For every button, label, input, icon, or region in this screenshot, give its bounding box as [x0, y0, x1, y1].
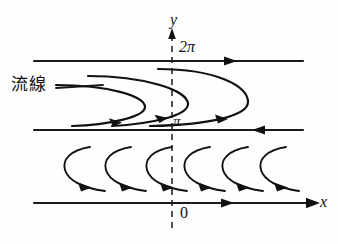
lower-streamline-4-path	[184, 147, 225, 191]
lower-streamline-5	[222, 147, 263, 192]
boundary-line-y-0-group	[34, 198, 320, 208]
y-tick-label-two-pi: 2π	[179, 39, 195, 55]
lower-streamline-1	[64, 147, 105, 192]
lower-streamline-5-arrow	[236, 183, 250, 192]
lower-streamline-2	[105, 147, 146, 192]
upper-streamline-2-arrow	[155, 115, 169, 123]
lower-streamline-2-arrow	[119, 183, 133, 192]
lower-streamline-5-path	[222, 147, 263, 191]
streamline-figure: y 2π π 0 x 流線	[0, 0, 338, 244]
lower-band-streamlines	[64, 147, 299, 192]
boundary-line-y-2pi-flow-arrow	[224, 56, 237, 65]
lower-streamline-4-arrow	[198, 183, 212, 192]
x-axis-label: x	[320, 194, 327, 210]
lower-streamline-3-path	[146, 147, 187, 191]
origin-label: 0	[180, 205, 188, 221]
lower-streamline-3	[146, 147, 187, 192]
x-axis-arrowhead	[306, 198, 320, 208]
lower-streamline-4	[184, 147, 225, 192]
upper-streamline-1	[56, 85, 145, 127]
upper-streamline-3-arrow	[215, 114, 228, 123]
y-axis-label: y	[170, 12, 177, 28]
lower-streamline-1-arrow	[78, 183, 92, 192]
upper-band-streamlines	[56, 69, 248, 127]
y-axis-arrowhead	[168, 28, 176, 39]
y-tick-label-pi: π	[173, 114, 181, 129]
boundary-line-y-0-flow-arrow	[221, 198, 234, 207]
streamline-diagram-canvas	[0, 0, 338, 244]
upper-streamline-1-path	[56, 85, 145, 126]
lower-streamline-6	[260, 147, 299, 192]
boundary-line-y-2pi-group	[34, 56, 303, 65]
lower-streamline-1-path	[64, 147, 105, 191]
boundary-line-y-pi-flow-arrow	[252, 125, 265, 134]
lower-streamline-6-path	[260, 147, 299, 191]
lower-streamline-6-arrow	[274, 183, 288, 192]
streamline-annotation-label: 流線	[11, 76, 46, 93]
lower-streamline-2-path	[105, 147, 146, 191]
